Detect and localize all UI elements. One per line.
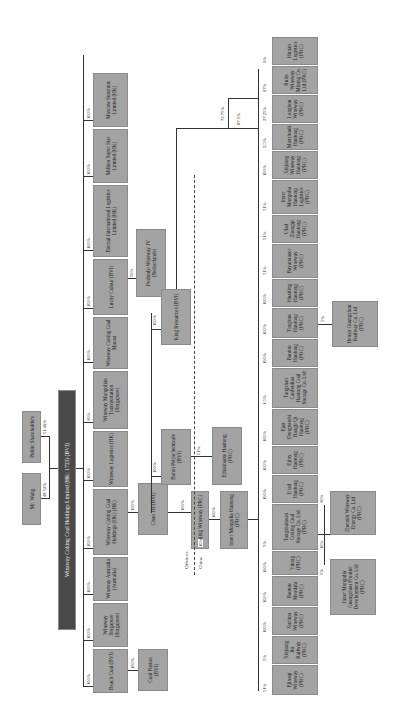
prc-longkou-winsway: Longkou Winsway (PRC) [272, 95, 318, 123]
subsidiary-eternal-intl: Eternal International Logistics Limited … [93, 185, 128, 257]
pct-prc-12: 100% [262, 294, 267, 305]
root-company: Winsway Coking Coal Holdings Limited (HK… [58, 390, 76, 630]
pct-branch-upper: 72.75% [220, 107, 225, 121]
pct-king-resources: 100% [152, 315, 157, 326]
prc-xinjiang-winsway-haotong: Xinjiang Winsway Haotong (PRC) [272, 151, 318, 179]
pct-prc-3: 100% [262, 592, 267, 603]
pct-prc-2: 100% [262, 622, 267, 633]
pct-prc-5: 5% [262, 541, 267, 547]
pct-prc-15: 51% [262, 203, 267, 211]
pct-mr-wang: 48.54% [42, 483, 47, 497]
pct-prc-0: 51% [262, 684, 267, 692]
prc-ejiny-haotong: Ejiny Haotong (PRC) [272, 446, 318, 474]
pct-baron-petro: 100% [152, 462, 157, 473]
pct-peabody-jv: 50% [129, 269, 134, 277]
pct-henan-railway: 5% [320, 316, 325, 322]
pct-prc-10: 100% [262, 353, 267, 364]
subsidiary-beach-coal: Beach Coal (BVI) [93, 649, 128, 693]
pct-inner-mongolia: 100% [211, 507, 216, 518]
prc-east-dongwushi: East Dongwushi Hangji Qi Haotong (PRC) [272, 409, 318, 445]
pct-winsway-logistics: 100% [86, 468, 91, 479]
prc-zhenxin-winsway: Zhenxin Winsway Energy Co. Ltd (PRC) [330, 491, 376, 535]
pct-branch-lower: 87.5% [236, 113, 241, 125]
subsidiary-lucky-colour: Lucky Colour (BVI) [93, 259, 128, 315]
pct-public: 51.46% [42, 420, 47, 434]
prc-baotou-haotong: Baotou Haotong (PRC) [272, 339, 318, 367]
prc-tingkou-haotong: Tingkou Haotong (PRC) [272, 308, 318, 338]
pct-prc-9: 1.5% [262, 395, 267, 405]
pct-winsway-australia: 100% [86, 582, 91, 593]
label-offshore: Offshore [184, 551, 189, 569]
pct-prc-1: 5% [262, 655, 267, 661]
shareholder-public: Public Shareholders [22, 411, 41, 463]
subsidiary-moscow-sunshine: Moscow Sunshine Limited (HK) [93, 73, 128, 127]
pct-million-super-star: 100% [86, 164, 91, 175]
prc-xinjiang-railway: Xinjiang Jiu Railway (PRC) [272, 636, 318, 664]
subsidiary-winsway-hk: Winsway Coking Coal Holdings (HK) (HK) [93, 489, 128, 555]
pct-prc-11: 100% [262, 324, 267, 335]
prc-hunan-logistics: Hunan Logistics (PRC) [272, 37, 318, 65]
subsidiary-mongolian-transport: Winsway Mongolian Transportation (Singap… [93, 371, 128, 429]
prc-tangshanwan: Tangshanwan Coking Coal Storage Co. Ltd … [272, 504, 318, 550]
prc-ulad-zhongqi: Ulad Zhongqi Haotong (PRC) [272, 215, 318, 243]
pct-erlianhaote: 51% [196, 447, 201, 455]
company-baron-petro: Baron Petrochemicals (BVI) [161, 429, 191, 485]
prc-inner-mongolia-logistics: Inner Mongolia Haotong Logistics (PRC) [272, 180, 318, 214]
pct-eternal-intl: 100% [86, 238, 91, 249]
pct-prc-17: 2.5% [262, 138, 267, 148]
offshore-china-divider [194, 175, 195, 575]
company-king-resources: King Resources (BVI) [161, 289, 191, 345]
pct-prc-20: 9% [262, 57, 267, 63]
org-chart-diagram: Mr. Wang Public Shareholders 48.54% 51.4… [0, 0, 399, 725]
company-coal-fusion: Coal Fusion (BVI) [138, 649, 168, 691]
prc-yitong: Yitong (PRC) [272, 551, 318, 575]
pct-winsway-singapore: 100% [86, 628, 91, 639]
label-china: China [198, 557, 203, 569]
pct-beach-coal: 100% [86, 674, 91, 685]
pct-prc-7: 100% [262, 460, 267, 471]
prc-inner-mongolia-development: Inner Mongolia Guangzhou Frontier Develo… [330, 559, 376, 615]
pct-prc-13: 51% [262, 267, 267, 275]
prc-xuzhou-winsway: Xuzhou Winsway (PRC) [272, 607, 318, 635]
prc-tangshan-caofeidian: Tangshan Caofeidian Haotong Coal Storage… [272, 368, 318, 408]
prc-henan-railway: Henan Guangzhou Railway Co. Ltd (PRC) [332, 301, 378, 347]
pct-winsway-hk: 100% [86, 536, 91, 547]
pct-zhenxin-2: 10% [319, 541, 324, 549]
pct-prc-16: 100% [262, 165, 267, 176]
subsidiary-winsway-australia: Winsway Australia (Australia) [93, 557, 128, 601]
pct-prc-8: 100% [262, 431, 267, 442]
pct-prc-14: 51% [262, 232, 267, 240]
pct-mongolian-transport: 90% [86, 413, 91, 421]
prc-ruhn-winsway: Ruhn Winsway Mining Co. Ltd (PRC) [272, 66, 318, 94]
pct-prc-19: 67% [262, 84, 267, 92]
pct-moscow-sunshine: 100% [86, 108, 91, 119]
subsidiary-winsway-logistics: Winsway Logistics (HK) [93, 431, 128, 487]
prc-baotou-mendala: Baotou Mendala (PRC) [272, 576, 318, 606]
company-peabody-jv: Peabody-Winsway JV (Netherlands) [136, 229, 166, 297]
shareholder-mr-wang: Mr. Wang [22, 473, 41, 525]
subsidiary-winsway-macau: Winsway Coking Coal Macau [93, 317, 128, 369]
pct-lucky-colour: 100% [86, 296, 91, 307]
pct-coal-fusion: 100% [130, 658, 135, 669]
pct-winsway-macau: 100% [86, 350, 91, 361]
pct-cross-border: 10% [198, 539, 203, 547]
pct-zhenxin: 90% [319, 495, 324, 503]
pct-prc-6: 100% [262, 489, 267, 500]
subsidiary-winsway-singapore: Winsway Singapore (Singapore) [93, 603, 128, 647]
pct-beijing-winsway: 100% [180, 500, 185, 511]
prc-urad-haotong: Urad Haotong (PRC) [272, 475, 318, 503]
company-chuo-tie: Chuo Tie (BVI) [138, 483, 168, 535]
company-erlianhaote: Erlianhaote Haotong (PRC) [212, 427, 242, 485]
pct-chuo-tie: 100% [130, 500, 135, 511]
prc-bayannaoer: Bayannaoer Winsway (PRC) [272, 244, 318, 278]
company-inner-mongolia-haotong: Inner Mongolia Haotong (PRC) [220, 491, 248, 549]
pct-inner-mongolia-dev: 5% [319, 569, 324, 575]
pct-prc-18: 27.25% [262, 107, 267, 121]
prc-manzhouli: Manzhouli Haotong (PRC) [272, 124, 318, 150]
subsidiary-million-super-star: Million Super Star Limited (HK) [93, 129, 128, 183]
prc-ejinaqi-winsway: Ejinaqi Winsway (PRC) [272, 665, 318, 695]
pct-prc-4: 100% [262, 562, 267, 573]
prc-huaiting-haotong: Huaiting Haotong (PRC) [272, 279, 318, 307]
